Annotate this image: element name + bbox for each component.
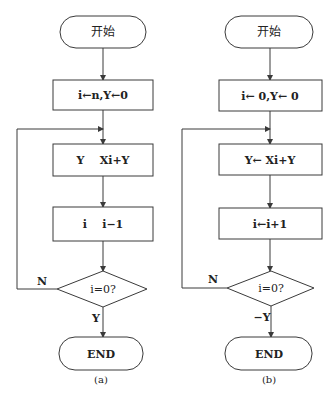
- step1-label-a: Y Xi+Y: [76, 154, 130, 167]
- init-label-b: i← 0,Y← 0: [241, 90, 299, 103]
- caption-b: (b): [262, 374, 276, 385]
- yes-label-a: Y: [91, 312, 100, 325]
- end-label-b: END: [255, 348, 283, 361]
- caption-a: (a): [94, 374, 108, 385]
- step1-label-b: Y← Xi+Y: [244, 154, 296, 167]
- no-label-a: N: [37, 275, 47, 288]
- flowchart-a: 开始 i←n,Y←0 Y Xi+Y i i−1 i=0? N Y END (a): [17, 16, 153, 385]
- flowchart-b: 开始 i← 0,Y← 0 Y← Xi+Y i←i+1 i=0? N −Y END…: [182, 16, 322, 385]
- step2-label-b: i←i+1: [253, 218, 287, 231]
- decision-label-a: i=0?: [90, 283, 116, 296]
- decision-label-b: i=0?: [258, 282, 284, 295]
- no-label-b: N: [208, 273, 218, 286]
- start-label-b: 开始: [257, 25, 281, 39]
- flowchart-canvas: 开始 i←n,Y←0 Y Xi+Y i i−1 i=0? N Y END (a)…: [0, 0, 332, 395]
- step2-label-a: i i−1: [83, 218, 124, 231]
- start-label-a: 开始: [91, 25, 115, 39]
- end-label-a: END: [87, 348, 115, 361]
- yes-label-b: −Y: [253, 311, 270, 324]
- init-label-a: i←n,Y←0: [78, 89, 128, 102]
